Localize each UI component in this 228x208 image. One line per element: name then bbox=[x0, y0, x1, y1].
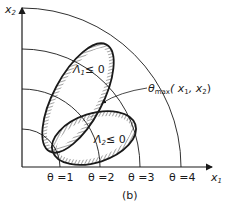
figure-caption: (b) bbox=[122, 190, 138, 201]
x2-axis-label: x2 bbox=[5, 4, 16, 17]
theta-max-label: θmax( x1, x2) bbox=[148, 83, 211, 96]
region-label-lambda1: Λ1≤ 0 bbox=[73, 64, 105, 77]
contour-label-1: θ =1 bbox=[47, 172, 73, 183]
contour-label-2: θ =2 bbox=[88, 172, 114, 183]
contour-label-4: θ =4 bbox=[169, 172, 195, 183]
region-label-lambda2: Λ2≤ 0 bbox=[94, 134, 126, 147]
x1-axis-label: x1 bbox=[211, 172, 222, 185]
contour-label-3: θ =3 bbox=[128, 172, 154, 183]
